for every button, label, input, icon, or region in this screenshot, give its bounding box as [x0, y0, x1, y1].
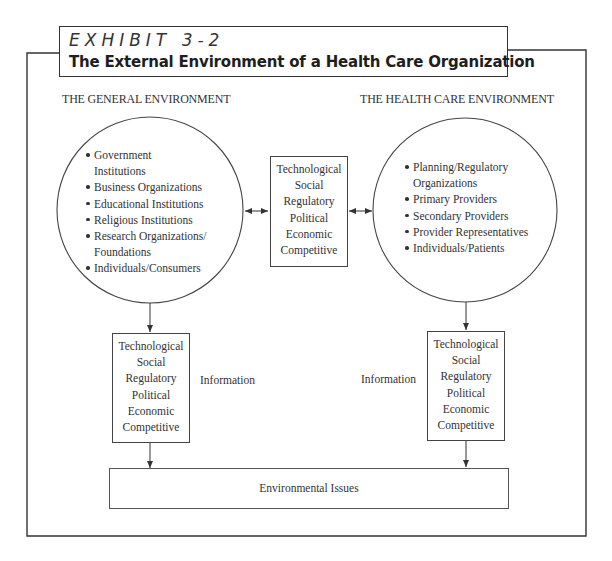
health-care-environment-list: Planning/Regulatory Organizations Primar…	[405, 159, 528, 256]
environmental-issues-box: Environmental Issues	[109, 468, 509, 509]
list-item-research: Research Organizations/ Foundations	[86, 228, 207, 260]
list-item-individuals-patients: Individuals/Patients	[405, 240, 528, 256]
list-item-government: Government Institutions	[86, 147, 207, 179]
list-item-educational: Educational Institutions	[86, 196, 207, 212]
exhibit-title: The External Environment of a Health Car…	[69, 53, 535, 71]
exhibit-label: EXHIBIT 3-2	[69, 30, 224, 50]
list-item-secondary-providers: Secondary Providers	[405, 208, 528, 224]
general-environment-list: Government Institutions Business Organiz…	[86, 147, 207, 277]
information-label-left: Information	[200, 374, 255, 386]
right-factors-box: Technological Social Regulatory Politica…	[427, 331, 505, 441]
list-item-planning-regulatory: Planning/Regulatory Organizations	[405, 159, 528, 191]
environmental-issues-label: Environmental Issues	[259, 482, 358, 494]
exhibit-title-box: EXHIBIT 3-2 The External Environment of …	[59, 26, 508, 77]
center-factors-box: Technological Social Regulatory Politica…	[270, 156, 348, 267]
outer-frame	[27, 50, 586, 536]
list-item-religious: Religious Institutions	[86, 212, 207, 228]
health-care-environment-heading: THE HEALTH CARE ENVIRONMENT	[360, 92, 554, 107]
left-factors-box: Technological Social Regulatory Politica…	[112, 333, 190, 443]
list-item-provider-representatives: Provider Representatives	[405, 224, 528, 240]
list-item-primary-providers: Primary Providers	[405, 191, 528, 207]
information-label-right: Information	[361, 373, 416, 385]
general-environment-heading: THE GENERAL ENVIRONMENT	[62, 92, 230, 107]
list-item-business: Business Organizations	[86, 179, 207, 195]
list-item-individuals-consumers: Individuals/Consumers	[86, 260, 207, 276]
